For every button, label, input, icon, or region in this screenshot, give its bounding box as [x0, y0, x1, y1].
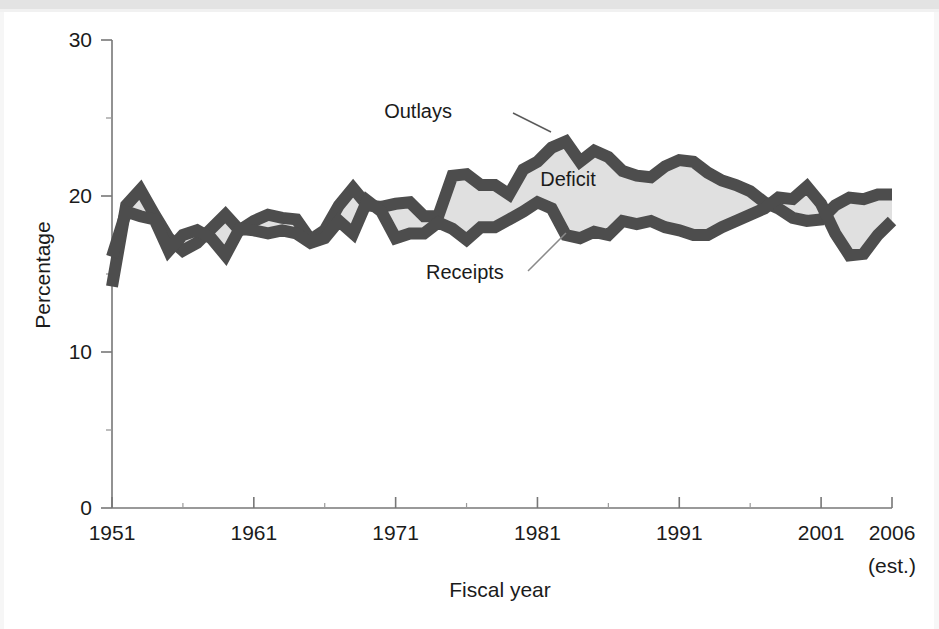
x-tick-label: 1971 [372, 521, 419, 544]
x-tick-label: 2001 [798, 521, 845, 544]
outlays-leader-line [513, 113, 551, 132]
x-tick-label: 1991 [656, 521, 703, 544]
x-axis-tick-labels: 1951196119711981199120012006 [89, 521, 916, 544]
deficit-label: Deficit [540, 168, 596, 190]
x-tick-label: 2006 [869, 521, 916, 544]
receipts-outlays-area-chart: 0102030 1951196119711981199120012006 Out… [0, 0, 939, 629]
y-tick-label: 20 [69, 184, 92, 207]
x-axis-title: Fiscal year [449, 578, 551, 601]
receipts-label: Receipts [426, 261, 504, 283]
receipts-leader-line [528, 233, 566, 271]
y-axis-title: Percentage [31, 221, 54, 328]
x-tick-label: 1961 [230, 521, 277, 544]
outlays-label: Outlays [384, 100, 452, 122]
x-axis-estimate-note: (est.) [868, 554, 916, 577]
y-tick-label: 0 [80, 496, 92, 519]
y-axis-tick-labels: 0102030 [69, 28, 92, 519]
y-tick-label: 30 [69, 28, 92, 51]
x-tick-label: 1981 [514, 521, 561, 544]
x-tick-label: 1951 [89, 521, 136, 544]
y-tick-label: 10 [69, 340, 92, 363]
figure-page: 0102030 1951196119711981199120012006 Out… [0, 0, 939, 629]
x-axis-ticks [112, 497, 892, 508]
